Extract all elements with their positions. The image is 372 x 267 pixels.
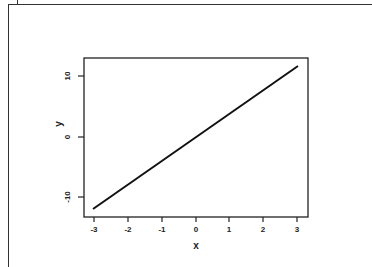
y-axis-title: y bbox=[53, 121, 64, 127]
x-tick-label: 3 bbox=[295, 225, 300, 234]
x-tick-label: 0 bbox=[194, 225, 199, 234]
x-tick-label: -3 bbox=[90, 225, 98, 234]
y-axis: 10 0 -10 y bbox=[53, 71, 84, 203]
x-axis: -3 -2 -1 0 1 2 3 x bbox=[90, 217, 299, 251]
x-tick-label: 2 bbox=[261, 225, 266, 234]
y-tick-label: -10 bbox=[63, 191, 72, 203]
x-tick-label: 1 bbox=[227, 225, 232, 234]
series-line bbox=[93, 66, 298, 209]
x-tick-label: -1 bbox=[158, 225, 166, 234]
line-chart: -3 -2 -1 0 1 2 3 x 10 0 -10 y bbox=[0, 0, 372, 267]
x-tick-label: -2 bbox=[124, 225, 132, 234]
y-tick-label: 10 bbox=[63, 71, 72, 80]
y-tick-label: 0 bbox=[63, 134, 72, 139]
x-axis-title: x bbox=[193, 240, 199, 251]
